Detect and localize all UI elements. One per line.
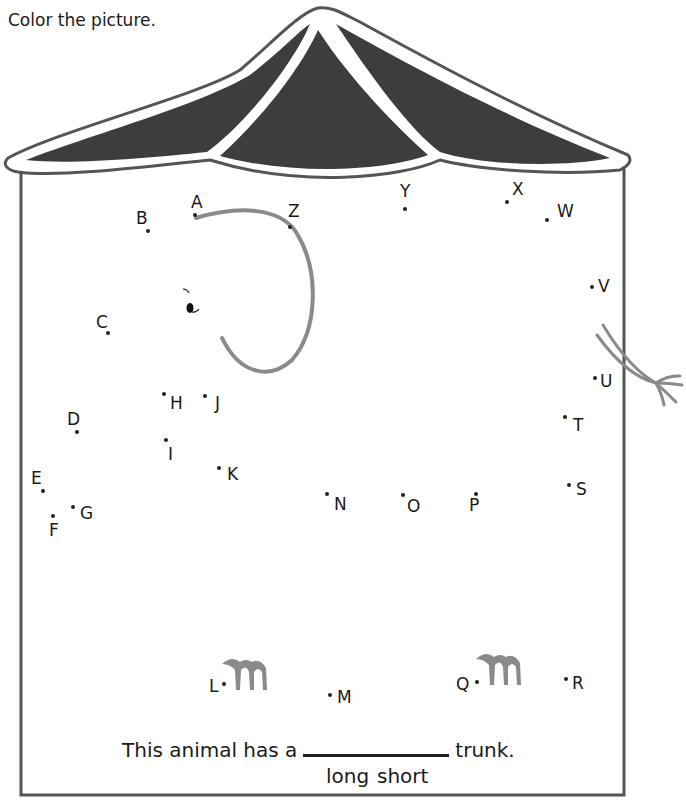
dot-point-n[interactable] (325, 492, 329, 496)
dot-label-n: N (334, 496, 347, 513)
dot-point-k[interactable] (217, 466, 221, 470)
dot-point-q[interactable] (475, 680, 479, 684)
instruction-text: Color the picture. (8, 10, 156, 30)
frame-outline (21, 168, 624, 795)
elephant-ear (196, 210, 313, 371)
fill-in-sentence: This animal has atrunk. (122, 738, 515, 762)
dot-label-b: B (136, 210, 148, 227)
elephant-back-foot (476, 654, 521, 685)
elephant-tail (597, 325, 682, 405)
dot-label-m: M (337, 689, 352, 706)
dot-point-x[interactable] (505, 200, 509, 204)
dot-point-u[interactable] (593, 376, 597, 380)
dot-label-p: P (469, 497, 479, 514)
dot-label-c: C (96, 314, 108, 331)
dot-point-r[interactable] (564, 677, 568, 681)
dot-point-f[interactable] (51, 514, 55, 518)
worksheet: Color the picture. ABCDEFGHIJKLMNOPQRSTU… (0, 0, 686, 805)
dot-label-r: R (572, 675, 584, 692)
dot-point-o[interactable] (401, 493, 405, 497)
dot-label-i: I (168, 446, 173, 463)
sentence-before: This animal has a (122, 738, 297, 762)
dot-label-a: A (191, 194, 203, 211)
dot-label-k: K (227, 466, 238, 483)
dot-label-d: D (67, 411, 80, 428)
dot-point-h[interactable] (162, 392, 166, 396)
dot-point-g[interactable] (71, 505, 75, 509)
dot-label-s: S (576, 481, 587, 498)
dot-label-o: O (407, 498, 420, 515)
dot-point-v[interactable] (590, 285, 594, 289)
dot-point-z[interactable] (288, 225, 292, 229)
dot-label-x: X (512, 181, 524, 198)
dot-point-s[interactable] (567, 483, 571, 487)
elephant-eye (183, 289, 199, 313)
dot-label-j: J (215, 395, 220, 412)
dot-point-i[interactable] (164, 438, 168, 442)
dot-point-w[interactable] (545, 218, 549, 222)
dot-label-g: G (80, 505, 93, 522)
dot-label-w: W (557, 203, 574, 220)
choice-long[interactable]: long (326, 764, 369, 788)
dot-point-y[interactable] (403, 207, 407, 211)
dot-point-a[interactable] (193, 213, 197, 217)
dot-label-l: L (209, 678, 218, 695)
sentence-after: trunk. (455, 738, 514, 762)
dot-label-f: F (49, 522, 59, 539)
dot-label-y: Y (400, 183, 410, 200)
elephant-front-foot (222, 659, 267, 690)
dot-label-t: T (573, 417, 583, 434)
choice-short[interactable]: short (377, 764, 428, 788)
dot-point-b[interactable] (146, 229, 150, 233)
dot-label-h: H (170, 395, 183, 412)
answer-blank[interactable] (303, 738, 449, 757)
dot-label-u: U (600, 373, 612, 390)
dot-point-j[interactable] (203, 394, 207, 398)
dot-label-e: E (31, 470, 42, 487)
dot-point-m[interactable] (328, 693, 332, 697)
dot-point-l[interactable] (222, 682, 226, 686)
dot-label-v: V (598, 278, 610, 295)
dot-point-t[interactable] (563, 415, 567, 419)
dot-point-d[interactable] (75, 430, 79, 434)
dot-label-q: Q (456, 676, 469, 693)
dot-label-z: Z (288, 203, 300, 220)
dot-point-e[interactable] (41, 489, 45, 493)
